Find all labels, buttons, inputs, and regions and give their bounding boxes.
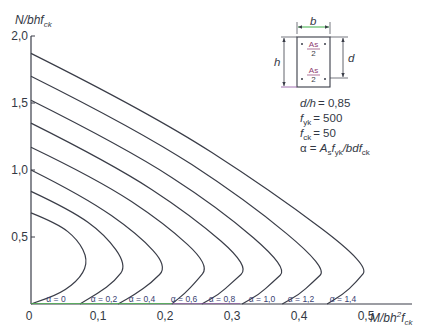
bottom-reinforcement-label: As [309, 66, 318, 75]
y-tick-label: 0,5 [11, 230, 28, 244]
y-tick-label: 2,0 [11, 29, 28, 43]
alpha-curve-0 [31, 213, 86, 304]
param-fyk: fyk= 500 [300, 112, 342, 127]
x-tick-label: 0,3 [224, 309, 241, 323]
y-axis-title: N/bhfck [15, 13, 53, 29]
alpha-label-2: α = 0,4 [129, 294, 156, 304]
alpha-label-6: α = 1,2 [288, 294, 315, 304]
cross-section-diagram: b h d As 2 As 2 [274, 15, 355, 87]
alpha-curve-2 [31, 170, 162, 304]
alpha-curve-7 [31, 53, 364, 304]
top-reinforcement-label: As [309, 40, 318, 49]
x-tick-label: 0,4 [291, 309, 308, 323]
param-d-over-h: d/h= 0,85 [300, 97, 350, 109]
alpha-curve-4 [31, 123, 243, 304]
param-alpha-definition: α = Asfyk/bdfck [300, 142, 371, 157]
tick-labels: 0,51,01,52,000,10,20,30,40,5 [11, 29, 374, 323]
alpha-curve-3 [31, 147, 204, 304]
alpha-label-0: α = 0 [46, 294, 66, 304]
bottom-reinforcement-den: 2 [311, 75, 316, 84]
y-tick-label: 1,5 [11, 96, 28, 110]
alpha-curve-6 [31, 76, 321, 304]
parameter-annotations: d/h= 0,85 fyk= 500 fck= 50 α = Asfyk/bdf… [300, 97, 371, 157]
alpha-label-5: α = 1,0 [249, 294, 276, 304]
x-tick-label: 0,1 [90, 309, 107, 323]
x-axis-title: M/bh2fck [370, 310, 413, 327]
axes [31, 36, 412, 304]
alpha-label-4: α = 0,8 [209, 294, 236, 304]
y-tick-label: 1,0 [11, 163, 28, 177]
b-label: b [310, 15, 317, 27]
interaction-diagram-chart: 0,51,01,52,000,10,20,30,40,5 α = 0α = 0,… [0, 0, 442, 334]
alpha-curve-1 [31, 191, 123, 304]
alpha-label-7: α = 1,4 [330, 294, 357, 304]
h-label: h [274, 56, 280, 68]
alpha-curve-labels: α = 0α = 0,2α = 0,4α = 0,6α = 0,8α = 1,0… [46, 294, 356, 304]
alpha-label-1: α = 0,2 [91, 294, 118, 304]
d-label: d [348, 52, 355, 64]
top-reinforcement-den: 2 [311, 49, 316, 58]
alpha-curve-5 [31, 100, 282, 304]
param-fck: fck= 50 [300, 127, 336, 142]
x-tick-label: 0,2 [157, 309, 174, 323]
alpha-label-3: α = 0,6 [171, 294, 198, 304]
alpha-curves [31, 53, 364, 304]
x-tick-label: 0 [26, 309, 33, 323]
